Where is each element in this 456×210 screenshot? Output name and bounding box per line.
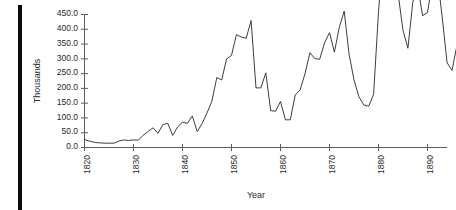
x-tick-label: 1870 bbox=[327, 155, 337, 174]
y-tick-label: 150.0 bbox=[57, 97, 79, 107]
x-tick-label: 1840 bbox=[180, 155, 190, 174]
x-tick-label: 1820 bbox=[82, 155, 92, 174]
x-axis-title: Year bbox=[247, 190, 265, 200]
y-tick-label: 300.0 bbox=[57, 53, 79, 63]
y-tick-label: 350.0 bbox=[57, 38, 79, 48]
y-tick-labels: 0.050.0100.0150.0200.0250.0300.0350.0400… bbox=[57, 8, 79, 151]
chart-screenshot: Thousands 0.050.0100.0150.0200.0250.0300… bbox=[0, 0, 456, 210]
line-chart-svg: Thousands 0.050.0100.0150.0200.0250.0300… bbox=[0, 0, 456, 210]
x-tick-label: 1880 bbox=[376, 155, 386, 174]
y-axis-title: Thousands bbox=[32, 58, 42, 103]
y-tick-label: 200.0 bbox=[57, 82, 79, 92]
y-tick-label: 0.0 bbox=[66, 141, 78, 151]
y-tick-label: 50.0 bbox=[61, 126, 78, 136]
x-tick-label: 1890 bbox=[425, 155, 435, 174]
x-tick-label: 1860 bbox=[278, 155, 288, 174]
y-tick-label: 400.0 bbox=[57, 23, 79, 33]
x-tick-label: 1850 bbox=[229, 155, 239, 174]
y-tick-label: 250.0 bbox=[57, 67, 79, 77]
x-tick-label: 1830 bbox=[131, 155, 141, 174]
x-tick-labels: 18201830184018501860187018801890 bbox=[82, 155, 435, 174]
chart-figure: Thousands 0.050.0100.0150.0200.0250.0300… bbox=[0, 0, 456, 210]
y-tick-label: 100.0 bbox=[57, 112, 79, 122]
y-tick-label: 450.0 bbox=[57, 8, 79, 18]
data-series-immigration bbox=[85, 0, 456, 143]
